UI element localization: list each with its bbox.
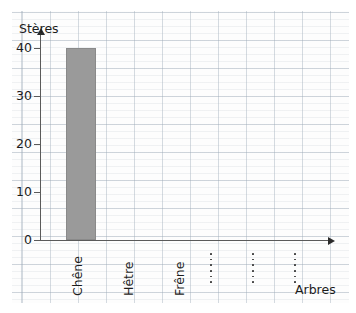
y-tick-mark — [34, 240, 41, 241]
y-tick-label: 0 — [6, 234, 32, 247]
x-axis-line — [40, 240, 331, 241]
y-axis-title: Stères — [19, 21, 59, 36]
chart-page: Stères Arbres 40 30 20 10 0 Chêne Hêtre … — [0, 0, 356, 313]
y-tick-mark — [34, 96, 41, 97]
x-category-label-chene: Chêne — [70, 256, 85, 296]
x-category-ellipsis-icon — [291, 253, 299, 283]
x-category-ellipsis-icon — [207, 253, 215, 283]
y-axis-line — [40, 34, 41, 241]
y-tick-label: 30 — [6, 90, 32, 103]
x-axis-arrow-icon — [328, 237, 335, 245]
x-category-label-frene: Frêne — [172, 262, 187, 296]
y-tick-label: 40 — [6, 42, 32, 55]
y-tick-mark — [34, 48, 41, 49]
bar-chene — [66, 48, 96, 240]
y-tick-mark — [34, 144, 41, 145]
bar-chart-plot: Stères Arbres 40 30 20 10 0 Chêne Hêtre … — [0, 0, 356, 313]
x-category-ellipsis-icon — [249, 253, 257, 283]
x-category-label-hetre: Hêtre — [121, 261, 136, 296]
x-axis-title: Arbres — [295, 282, 336, 297]
y-tick-label: 10 — [6, 186, 32, 199]
y-tick-label: 20 — [6, 138, 32, 151]
y-tick-mark — [34, 192, 41, 193]
